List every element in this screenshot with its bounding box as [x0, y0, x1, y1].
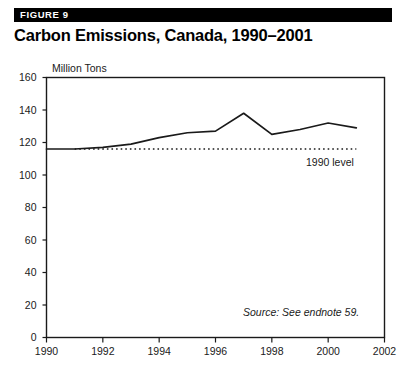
y-axis-tick-label: 100: [11, 169, 37, 181]
y-axis-title: Million Tons: [52, 62, 107, 74]
y-axis-tick-label: 0: [11, 331, 37, 343]
x-axis-tick-label: 2002: [365, 345, 405, 357]
chart-container: Million Tons 020406080100120140160 19901…: [0, 0, 413, 371]
x-axis-tick-label: 1998: [252, 345, 292, 357]
y-axis-tick-label: 40: [11, 266, 37, 278]
x-axis-tick-label: 2000: [308, 345, 348, 357]
y-axis-tick-label: 120: [11, 136, 37, 148]
y-axis-tick-label: 160: [11, 71, 37, 83]
source-note: Source: See endnote 59.: [243, 306, 359, 318]
plot-frame: [47, 78, 385, 338]
data-series-line: [47, 113, 357, 149]
x-axis-tick-label: 1990: [27, 345, 67, 357]
x-axis-tick-label: 1996: [196, 345, 236, 357]
y-axis-tick-label: 60: [11, 234, 37, 246]
reference-line-label: 1990 level: [306, 156, 354, 168]
x-axis-ticks: [47, 338, 385, 343]
y-axis-tick-label: 140: [11, 104, 37, 116]
x-axis-tick-label: 1994: [139, 345, 179, 357]
y-axis-tick-label: 80: [11, 201, 37, 213]
x-axis-tick-label: 1992: [83, 345, 123, 357]
y-axis-tick-label: 20: [11, 299, 37, 311]
